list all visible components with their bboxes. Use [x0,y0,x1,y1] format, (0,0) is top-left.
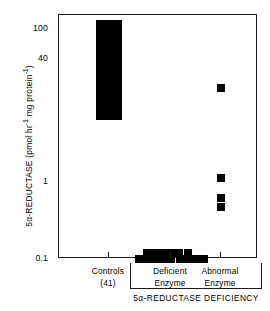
y-tick-label-40: 40 [8,53,48,63]
y-axis-title-suffix: ) [24,65,34,68]
data-point-deficient-enzyme [159,249,167,257]
y-tick-label-0.1: 0.1 [8,253,48,263]
data-point-abnormal-enzyme [217,194,225,202]
deficiency-group-bracket [130,263,262,289]
y-tick-label-1: 1 [8,176,48,186]
x-axis-group-title: 5α-REDUCTASE DEFICIENCY [133,293,259,303]
y-axis-title-mid: mg protein [24,74,34,119]
data-point-deficient-enzyme [151,249,159,257]
x-tick-mark-1 [170,252,171,258]
x-tick-mark-2 [220,252,221,258]
x-category-label-line1: Controls [92,266,124,278]
y-axis-title-exponent-1: -1 [22,119,29,125]
plot-area [58,14,257,258]
data-point-deficient-enzyme [175,249,183,257]
controls-range-bar [96,20,122,120]
y-tick-label-100: 100 [8,23,48,33]
data-point-abnormal-enzyme [217,203,225,211]
data-point-abnormal-enzyme [217,84,225,92]
x-tick-mark-0 [108,252,109,258]
figure-5alpha-reductase-activity: 5α-REDUCTASE (pmol hr-1 mg protein-1) 10… [0,0,270,311]
data-point-deficient-enzyme [184,249,192,257]
x-category-label-0: Controls(41) [92,266,124,289]
x-category-label-line2: (41) [92,278,124,290]
y-axis-title-exponent-2: -1 [22,68,29,74]
data-point-abnormal-enzyme [217,174,225,182]
data-point-deficient-enzyme [143,249,151,257]
